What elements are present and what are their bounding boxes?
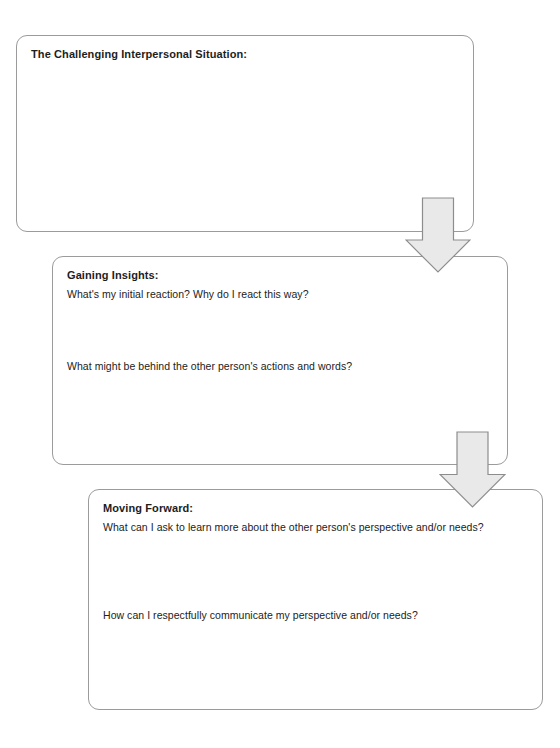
writing-area-situation[interactable] bbox=[31, 62, 461, 222]
section-title-situation: The Challenging Interpersonal Situation: bbox=[31, 46, 461, 62]
question-prompt-forward-2: How can I respectfully communicate my pe… bbox=[103, 607, 530, 623]
writing-area-insights-1[interactable] bbox=[67, 302, 495, 358]
question-prompt-insights-2: What might be behind the other person's … bbox=[67, 358, 495, 374]
question-prompt-forward-1: What can I ask to learn more about the o… bbox=[103, 519, 530, 535]
writing-area-forward-1[interactable] bbox=[103, 535, 530, 607]
section-content-forward: Moving Forward: What can I ask to learn … bbox=[103, 500, 530, 693]
worksheet-page: The Challenging Interpersonal Situation:… bbox=[0, 0, 560, 748]
section-content-insights: Gaining Insights: What's my initial reac… bbox=[67, 267, 495, 436]
down-arrow-icon bbox=[439, 431, 506, 508]
section-box-forward: Moving Forward: What can I ask to learn … bbox=[88, 489, 543, 710]
question-prompt-insights-1: What's my initial reaction? Why do I rea… bbox=[67, 286, 495, 302]
writing-area-insights-2[interactable] bbox=[67, 374, 495, 436]
writing-area-forward-2[interactable] bbox=[103, 623, 530, 693]
down-arrow-icon bbox=[405, 197, 471, 273]
section-content-situation: The Challenging Interpersonal Situation: bbox=[31, 46, 461, 222]
